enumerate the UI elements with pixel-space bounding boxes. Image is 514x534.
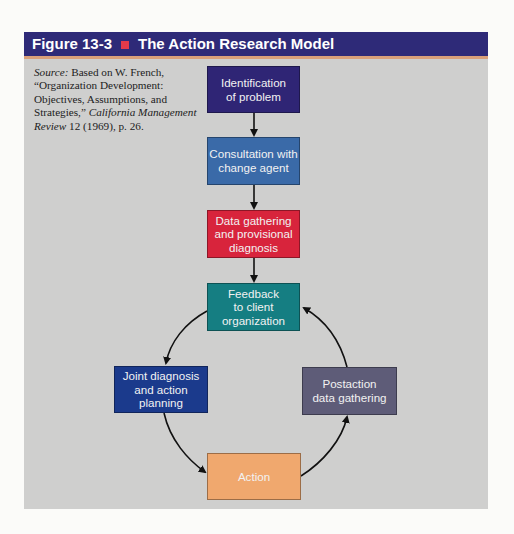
step-feedback: Feedback to client organization xyxy=(207,283,300,331)
step-data-gathering: Data gathering and provisional diagnosis xyxy=(207,210,300,258)
figure-label: Figure 13-3 xyxy=(32,35,112,52)
figure-title: The Action Research Model xyxy=(138,35,334,52)
step-identification: Identification of problem xyxy=(207,66,300,113)
step-action: Action xyxy=(207,453,301,500)
figure-header: Figure 13-3The Action Research Model xyxy=(24,32,488,56)
square-marker-icon xyxy=(121,41,129,49)
source-prefix: Source: xyxy=(34,66,68,78)
step-consultation: Consultation with change agent xyxy=(207,137,300,185)
header-rule xyxy=(24,56,488,59)
step-postaction: Postaction data gathering xyxy=(302,367,397,415)
source-note: Source: Based on W. French, “Organizatio… xyxy=(34,66,204,133)
source-citation: 12 (1969), p. 26. xyxy=(66,120,143,132)
step-joint-diagnosis: Joint diagnosis and action planning xyxy=(114,366,208,413)
